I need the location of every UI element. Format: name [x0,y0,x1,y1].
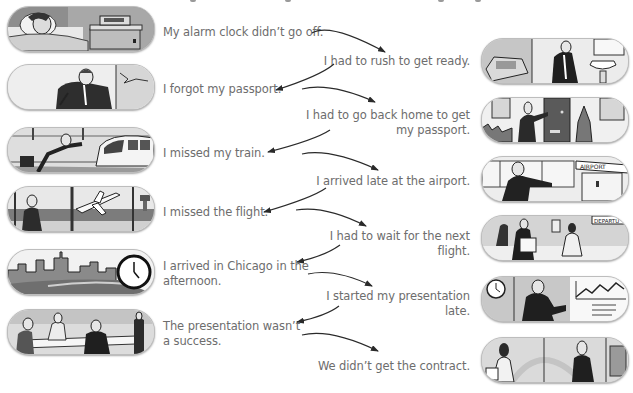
office-people-leaving-illustration [481,337,629,383]
caption-train: I missed my train. [163,146,265,161]
cause-effect-exercise: My alarm clock didn’t go off. I forgot m… [0,0,633,393]
caption-started: I started my presentation late. [326,289,470,319]
caption-line: my passport. [306,123,470,138]
caption-line: I missed the flight. [163,205,268,220]
caption-line: I had to rush to get ready. [324,54,470,69]
caption-line: We didn’t get the contract. [318,359,470,374]
departure-lounge-illustration: DEPARTU [481,215,629,261]
cropped-title-fragment [475,0,481,2]
caption-line: afternoon. [163,274,309,289]
caption-line: I missed my train. [163,146,265,161]
arrow-right-icon [302,333,378,351]
cropped-title-fragment [438,0,444,2]
city-skyline-clock-illustration [7,249,155,295]
cropped-title-fragment [285,0,291,2]
caption-line: My alarm clock didn’t go off. [163,25,323,40]
caption-flight: I missed the flight. [163,205,268,220]
caption-line: I had to go back home to get [306,108,470,123]
arrow-right-icon [308,273,372,287]
man-brushing-teeth-illustration [481,38,629,84]
airplane-taking-off-illustration [7,186,155,232]
caption-line: flight. [330,244,470,259]
man-at-airport-entrance-illustration: AIRPORT [481,156,629,202]
caption-passport: I forgot my passport. [163,82,281,97]
caption-line: I forgot my passport. [163,82,281,97]
caption-line: I had to wait for the next [330,229,470,244]
man-sleeping-alarm-clock-illustration [7,6,155,52]
arrow-left-icon [264,188,326,212]
arrow-right-icon [302,153,378,170]
caption-line: late. [326,304,470,319]
man-panicking-illustration [7,64,155,110]
caption-line: a success. [163,334,300,349]
svg-text:DEPARTU: DEPARTU [594,218,619,224]
caption-line: I arrived late at the airport. [316,174,470,189]
caption-alarm: My alarm clock didn’t go off. [163,25,323,40]
caption-wait: I had to wait for the next flight. [330,229,470,259]
man-running-after-train-illustration [7,127,155,173]
caption-line: I arrived in Chicago in the [163,259,309,274]
caption-line: The presentation wasn’t [163,319,300,334]
cropped-title-fragment [190,0,196,2]
caption-rush: I had to rush to get ready. [324,54,470,69]
man-presenting-chart-illustration [481,276,629,322]
man-at-front-door-illustration [481,97,629,143]
caption-contract: We didn’t get the contract. [318,359,470,374]
caption-goback: I had to go back home to get my passport… [306,108,470,138]
meeting-table-illustration [7,309,155,355]
caption-success: The presentation wasn’t a success. [163,319,300,349]
svg-text:AIRPORT: AIRPORT [580,163,606,170]
caption-chicago: I arrived in Chicago in the afternoon. [163,259,309,289]
caption-late: I arrived late at the airport. [316,174,470,189]
arrow-right-icon [302,87,375,102]
arrow-right-icon [296,209,366,226]
caption-line: I started my presentation [326,289,470,304]
